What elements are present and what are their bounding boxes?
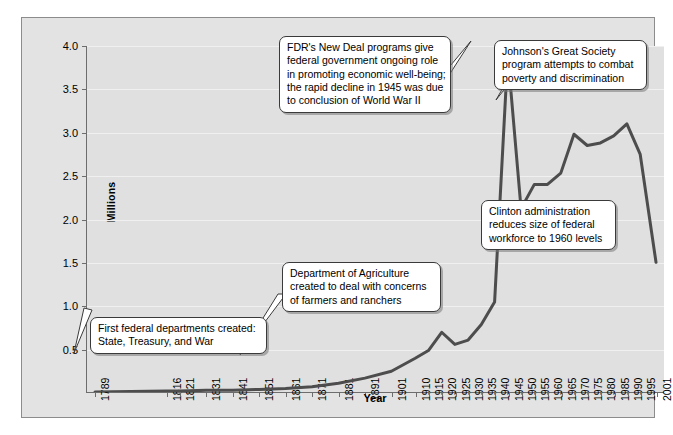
- callout-great-society: Johnson's Great Society program attempts…: [494, 40, 647, 90]
- callout-line: workforce to 1960 levels: [489, 232, 609, 245]
- callout-line: Department of Agriculture: [290, 267, 434, 280]
- callout-line: to conclusion of World War II: [287, 94, 444, 107]
- callout-line: First federal departments created:: [98, 322, 260, 335]
- callout-line: FDR's New Deal programs give: [287, 41, 444, 54]
- callout-line: program attempts to combat: [502, 58, 640, 71]
- callout-line: poverty and discrimination: [502, 72, 640, 85]
- callout-new-deal: FDR's New Deal programs give federal gov…: [279, 36, 451, 113]
- callout-line: State, Treasury, and War: [98, 335, 260, 348]
- callout-line: of farmers and ranchers: [290, 294, 434, 307]
- chart-frame: Millions 4.03.53.02.52.01.51.00.5 178918…: [21, 17, 655, 418]
- callout-line: federal government ongoing role: [287, 54, 444, 67]
- callout-clinton: Clinton administration reduces size of f…: [481, 200, 616, 250]
- callout-line: created to deal with concerns: [290, 280, 434, 293]
- callout-line: in promoting economic well-being;: [287, 68, 444, 81]
- callout-dept-agriculture: Department of Agriculture created to dea…: [282, 262, 441, 312]
- callout-first-departments: First federal departments created: State…: [90, 317, 267, 354]
- callout-line: Clinton administration: [489, 205, 609, 218]
- callout-line: reduces size of federal: [489, 218, 609, 231]
- callout-line: Johnson's Great Society: [502, 45, 640, 58]
- callout-line: the rapid decline in 1945 was due: [287, 81, 444, 94]
